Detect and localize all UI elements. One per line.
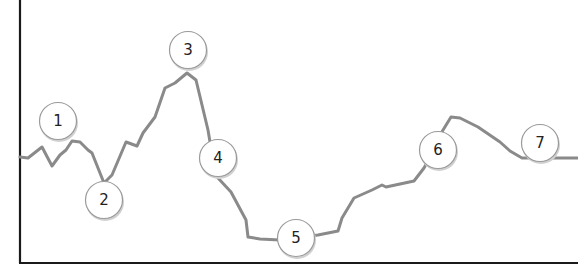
marker-4: 4 <box>200 140 239 180</box>
marker-label: 5 <box>291 229 301 247</box>
marker-3: 3 <box>170 32 209 72</box>
marker-label: 3 <box>183 41 193 59</box>
marker-5: 5 <box>278 220 317 260</box>
marker-label: 6 <box>433 141 443 159</box>
marker-7: 7 <box>522 125 561 165</box>
numbered-markers: 1234567 <box>40 32 561 260</box>
trend-diagram: 1234567 <box>0 0 578 277</box>
marker-label: 7 <box>535 134 545 152</box>
marker-label: 1 <box>53 112 63 130</box>
marker-2: 2 <box>86 182 125 222</box>
marker-6: 6 <box>420 132 459 172</box>
marker-1: 1 <box>40 103 79 143</box>
marker-label: 2 <box>99 191 109 209</box>
marker-label: 4 <box>213 149 223 167</box>
